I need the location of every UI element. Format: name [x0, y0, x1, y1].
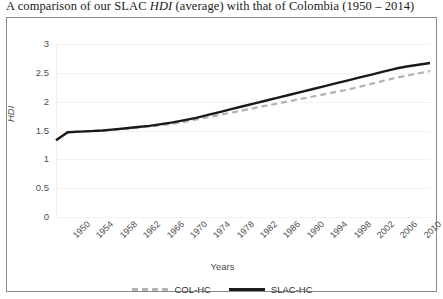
y-axis-tick: 2: [15, 96, 49, 107]
x-axis-tick: 1958: [118, 219, 139, 240]
chart-screenshot: A comparison of our SLAC HDI (average) w…: [0, 0, 443, 299]
x-axis-tick: 1954: [94, 219, 115, 240]
chart-frame: 00.511.522.53 HDI 1950195419581962196619…: [6, 17, 437, 292]
chart-title-part-1: A comparison of our SLAC: [6, 0, 150, 13]
chart-legend: COL-HCSLAC-HC: [7, 280, 438, 298]
x-axis-tick: 1962: [141, 219, 162, 240]
x-axis-tick: 1950: [71, 219, 92, 240]
chart-title-part-2: (average) with that of Colombia (1950 – …: [172, 0, 414, 13]
y-axis-tick: 1: [15, 153, 49, 164]
y-axis-tick: 2.5: [15, 67, 49, 78]
legend-swatch-col-hc: [132, 288, 168, 291]
x-axis-title: Years: [7, 261, 438, 272]
chart-title: A comparison of our SLAC HDI (average) w…: [6, 0, 438, 16]
x-axis-tick: 2006: [398, 219, 419, 240]
chart-title-italic-hdi: HDI: [150, 0, 173, 13]
x-axis-tick: 2002: [375, 219, 396, 240]
x-axis-tick: 1986: [281, 219, 302, 240]
y-axis-tick: 1.5: [15, 125, 49, 136]
x-axis-tick: 2010: [421, 219, 442, 240]
plot-area: [56, 44, 430, 217]
legend-item: SLAC-HC: [229, 284, 313, 295]
y-axis-tick: 0: [15, 211, 49, 222]
legend-swatch-slac-hc: [229, 288, 265, 291]
legend-label: COL-HC: [174, 284, 210, 295]
x-axis-tick: 1998: [351, 219, 372, 240]
x-axis-tick-labels: 1950195419581962196619701974197819821986…: [56, 219, 436, 259]
x-axis-tick: 1974: [211, 219, 232, 240]
legend-label: SLAC-HC: [271, 284, 313, 295]
x-axis-tick: 1990: [305, 219, 326, 240]
y-axis-tick: 3: [15, 38, 49, 49]
y-axis-tick: 0.5: [15, 182, 49, 193]
x-axis-tick: 1978: [234, 219, 255, 240]
y-axis-title: HDI: [5, 106, 16, 122]
x-axis-tick: 1970: [188, 219, 209, 240]
x-axis-tick: 1994: [328, 219, 349, 240]
legend-item: COL-HC: [132, 284, 210, 295]
series-line-slac-hc: [56, 63, 430, 140]
gridline: [56, 217, 430, 218]
x-axis-tick: 1966: [164, 219, 185, 240]
series-canvas: [56, 44, 430, 217]
x-axis-tick: 1982: [258, 219, 279, 240]
